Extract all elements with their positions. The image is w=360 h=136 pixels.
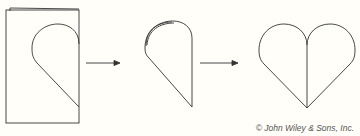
- folded-paper-icon: [6, 8, 79, 123]
- heart-icon: [259, 24, 355, 108]
- heart-cutting-diagram: [0, 0, 360, 136]
- copyright-credit: © John Wiley & Sons, Inc.: [256, 123, 354, 133]
- half-heart-cut-icon: [145, 21, 192, 107]
- arrow-right-icon: [86, 61, 120, 66]
- arrow-right-icon: [200, 61, 238, 66]
